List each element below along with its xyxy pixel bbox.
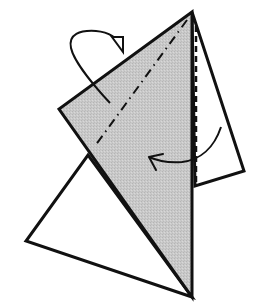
right-flap [192, 12, 244, 186]
diagram-canvas [0, 0, 266, 307]
origami-diagram [0, 0, 266, 307]
